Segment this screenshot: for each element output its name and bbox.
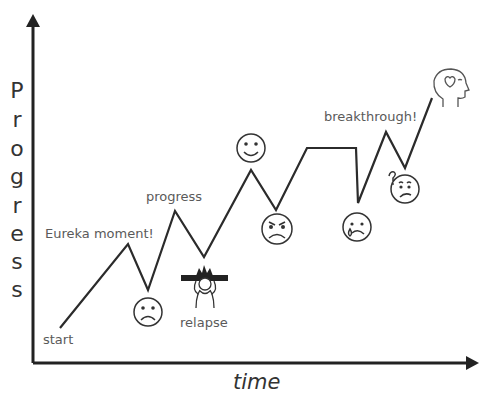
label-breakthrough: breakthrough! [324, 110, 417, 123]
y-axis-letter: s [8, 279, 26, 301]
sad-face-icon [134, 298, 162, 326]
y-axis-letter: r [8, 109, 26, 131]
angry-face-icon [262, 214, 292, 244]
label-relapse: relapse [180, 316, 228, 329]
progress-path [60, 98, 432, 328]
label-eureka: Eureka moment! [45, 227, 154, 240]
y-axis-letter: s [8, 251, 26, 273]
head-heart-icon [434, 69, 469, 107]
y-axis-letter: g [8, 166, 26, 188]
label-progress: progress [146, 190, 202, 203]
x-axis-label: time [233, 372, 280, 393]
label-start: start [43, 333, 73, 346]
relapse-person-icon [181, 265, 228, 308]
confused-face-icon [389, 172, 419, 203]
y-axis-letter: P [8, 80, 26, 102]
y-axis-arrow-icon [26, 14, 40, 27]
y-axis-letter: r [8, 195, 26, 217]
crying-face-icon [343, 213, 371, 241]
axes [26, 14, 479, 370]
happy-face-icon [237, 134, 265, 162]
x-axis-arrow-icon [466, 356, 479, 370]
progress-diagram: P r o g r e s s time start Eureka moment… [0, 0, 483, 403]
y-axis-letter: o [8, 138, 26, 160]
y-axis-letter: e [8, 223, 26, 245]
